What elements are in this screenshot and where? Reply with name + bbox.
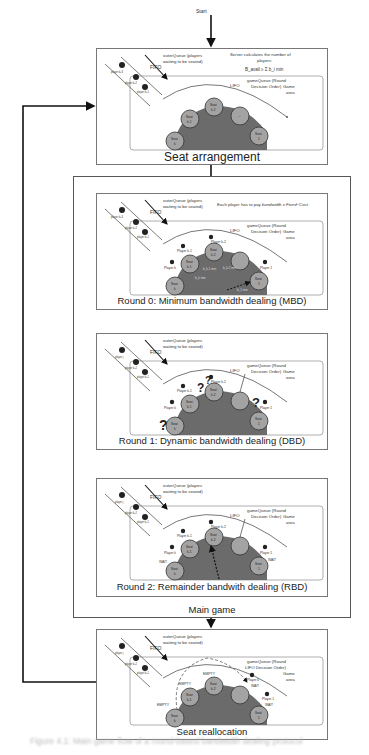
- svg-text:Seat: Seat: [186, 693, 193, 697]
- svg-text:k-1: k-1: [187, 550, 192, 554]
- svg-text:1: 1: [258, 567, 260, 571]
- svg-text:area: area: [286, 677, 295, 682]
- svg-text:Seat: Seat: [186, 400, 193, 404]
- svg-text:...: ...: [238, 114, 241, 118]
- round-1-panel: player j player k+2 player k+1 FIFO oute…: [96, 333, 328, 450]
- svg-text:player k+1: player k+1: [137, 90, 150, 94]
- svg-text:player k+1: player k+1: [137, 235, 150, 239]
- svg-text:Seat: Seat: [210, 248, 217, 252]
- figure-caption: Figure 4.1: Main game flow of a round-ba…: [30, 736, 340, 746]
- svg-text:k-2: k-2: [211, 393, 216, 397]
- svg-text:FIFO: FIFO: [150, 349, 161, 355]
- svg-text:Seat: Seat: [255, 711, 262, 715]
- svg-text:Seat: Seat: [210, 388, 217, 392]
- svg-text:Seat: Seat: [171, 422, 178, 426]
- svg-text:player k+2: player k+2: [125, 226, 138, 230]
- svg-text:?: ?: [197, 381, 204, 395]
- svg-text:1: 1: [258, 422, 260, 426]
- svg-text:Decision Order): Decision Order): [251, 84, 282, 89]
- svg-text:waiting to be seated): waiting to be seated): [163, 640, 203, 645]
- svg-text:waiting to be seated): waiting to be seated): [163, 489, 203, 494]
- svg-text:player k+2: player k+2: [125, 81, 138, 85]
- svg-text:waiting to be seated): waiting to be seated): [163, 204, 203, 209]
- svg-text:player k+3: player k+3: [111, 70, 124, 74]
- svg-text:EMPTY: EMPTY: [157, 703, 170, 707]
- svg-text:WAIT: WAIT: [265, 703, 273, 707]
- svg-text:k-1: k-1: [187, 698, 192, 702]
- svg-text:outerQueue (players: outerQueue (players: [163, 198, 202, 203]
- svg-text:Player 1: Player 1: [260, 406, 272, 410]
- svg-text:outerQueue (players: outerQueue (players: [163, 634, 202, 639]
- svg-text:Seat: Seat: [255, 417, 262, 421]
- svg-text:1: 1: [258, 137, 260, 141]
- svg-text:Player k-2: Player k-2: [211, 380, 226, 384]
- svg-text:Each player has to pay bandwid: Each player has to pay bandwidth x Fixed…: [217, 202, 309, 207]
- svg-text:Player k: Player k: [164, 551, 176, 555]
- svg-text:player k+2: player k+2: [125, 662, 138, 666]
- svg-text:EMPTY: EMPTY: [203, 672, 216, 676]
- round-0-diagram: player k+3 player k+2 player k+1 FIFO ou…: [97, 194, 329, 311]
- svg-text:k-1: k-1: [187, 120, 192, 124]
- svg-text:FIFO: FIFO: [150, 645, 161, 651]
- svg-text:b_k-1 min: b_k-1 min: [203, 267, 217, 271]
- svg-text:Player k: Player k: [247, 678, 259, 682]
- svg-text:Game: Game: [283, 229, 295, 234]
- svg-text:LIFO Decision Order): LIFO Decision Order): [245, 665, 286, 670]
- round-2-title: Round 2: Remainder bandwith dealing (RBD…: [97, 581, 327, 592]
- svg-text:k-2: k-2: [211, 687, 216, 691]
- svg-text:Game: Game: [283, 671, 295, 676]
- svg-text:Server calculates the number o: Server calculates the number of: [230, 52, 291, 57]
- svg-text:k-1: k-1: [187, 405, 192, 409]
- svg-text:Seat: Seat: [210, 682, 217, 686]
- svg-text:WAIT: WAIT: [159, 560, 167, 564]
- svg-text:b_k min: b_k min: [195, 276, 206, 280]
- svg-text:?: ?: [252, 395, 260, 410]
- svg-text:FIFO: FIFO: [150, 209, 161, 215]
- svg-text:?: ?: [205, 375, 211, 386]
- svg-text:gameQueue (Round: gameQueue (Round: [247, 223, 287, 228]
- svg-text:Player k-1: Player k-1: [177, 534, 192, 538]
- svg-text:Game: Game: [283, 84, 295, 89]
- round-2-panel: player j player k+2 player k+1 FIFO oute…: [96, 478, 328, 597]
- svg-text:Player k-2: Player k-2: [211, 525, 226, 529]
- svg-text:Seat: Seat: [186, 260, 193, 264]
- svg-text:Seat: Seat: [255, 562, 262, 566]
- svg-text:Seat: Seat: [186, 545, 193, 549]
- round-0-panel: player k+3 player k+2 player k+1 FIFO ou…: [96, 193, 328, 310]
- svg-text:?: ?: [159, 417, 168, 433]
- svg-text:player j: player j: [115, 500, 124, 504]
- svg-text:player j: player j: [115, 355, 124, 359]
- svg-text:k-2: k-2: [211, 538, 216, 542]
- svg-text:1: 1: [258, 716, 260, 720]
- svg-text:player k+1: player k+1: [137, 520, 150, 524]
- svg-text:Seat: Seat: [171, 714, 178, 718]
- svg-text:WAIT: WAIT: [268, 558, 276, 562]
- svg-text:Player k: Player k: [164, 406, 176, 410]
- round-1-title: Round 1: Dynamic bandwidth dealing (DBD): [97, 435, 327, 446]
- svg-text:area: area: [286, 520, 295, 525]
- seat-arrangement-diagram: player k+3 player k+2 player k+1 FIFO ou…: [97, 49, 329, 166]
- svg-text:player j: player j: [115, 651, 124, 655]
- svg-text:WAIT: WAIT: [251, 684, 259, 688]
- svg-text:Player k-1: Player k-1: [177, 249, 192, 253]
- svg-text:B_avail ≥ Σ b_i min: B_avail ≥ Σ b_i min: [245, 67, 284, 72]
- svg-text:EMPTY: EMPTY: [179, 682, 192, 686]
- svg-text:Player 1: Player 1: [260, 551, 272, 555]
- svg-text:player k+2: player k+2: [125, 366, 138, 370]
- svg-text:Seat: Seat: [210, 103, 217, 107]
- svg-text:player k+1: player k+1: [137, 671, 150, 675]
- svg-text:k-2: k-2: [211, 253, 216, 257]
- seat-reallocation-panel: player j player k+2 player k+1 FIFO oute…: [96, 629, 328, 740]
- svg-text:outerQueue (players: outerQueue (players: [163, 338, 202, 343]
- svg-text:Decision Order): Decision Order): [251, 229, 282, 234]
- seat-arrangement-panel: player k+3 player k+2 player k+1 FIFO ou…: [96, 48, 328, 165]
- svg-text:player k+2: player k+2: [125, 511, 138, 515]
- svg-text:Seat: Seat: [255, 277, 262, 281]
- svg-text:Game: Game: [283, 369, 295, 374]
- svg-text:Seat: Seat: [171, 282, 178, 286]
- svg-text:b_1 min: b_1 min: [237, 288, 248, 292]
- svg-text:Player k: Player k: [164, 266, 176, 270]
- svg-text:Player k-2: Player k-2: [211, 240, 226, 244]
- svg-text:Player 1: Player 1: [262, 697, 274, 701]
- svg-text:k-2: k-2: [211, 108, 216, 112]
